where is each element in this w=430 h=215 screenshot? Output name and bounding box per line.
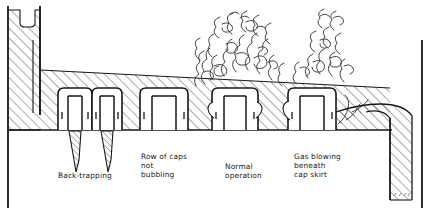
label-gas-blowing-beneath-cap-skirt: Gas blowing beneath cap skirt bbox=[294, 152, 341, 180]
bubble-cap-5 bbox=[283, 88, 336, 130]
label-normal-operation: Normal operation bbox=[225, 162, 262, 180]
bubble-cap-1 bbox=[58, 88, 92, 130]
bubble-cap-4 bbox=[208, 88, 262, 130]
bubble-cap-3 bbox=[140, 88, 188, 130]
froth-plume-normal-operation bbox=[195, 11, 284, 86]
back-trapping-weep-streams bbox=[69, 131, 113, 172]
tray-cross-section-drawing bbox=[0, 0, 430, 215]
label-row-of-caps-not-bubbling: Row of caps not bubbling bbox=[141, 152, 187, 180]
left-downcomer-liquid bbox=[9, 10, 40, 130]
figure-canvas: Back-trapping Row of caps not bubbling N… bbox=[0, 0, 430, 215]
bubble-cap-2 bbox=[92, 88, 122, 130]
label-back-trapping: Back-trapping bbox=[58, 171, 112, 180]
